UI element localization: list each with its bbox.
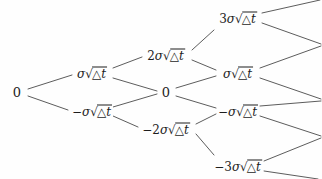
triangle-delta-icon: △ (92, 67, 101, 81)
lattice-edge (176, 96, 216, 108)
minus-sign: − (218, 105, 228, 119)
node-value-text: 0 (162, 85, 170, 100)
lattice-edge (196, 134, 214, 155)
sigma-symbol: σ (77, 67, 85, 81)
lattice-edge (113, 78, 157, 91)
lattice-edge (260, 46, 321, 68)
minus-sign: − (214, 160, 224, 174)
node-coefficient: 3 (219, 12, 227, 26)
lattice-edge (113, 116, 138, 127)
time-variable: t (101, 67, 106, 81)
radicand: △t (92, 67, 107, 80)
square-root-symbol: √△t (90, 105, 112, 118)
lattice-diagram: 0σ√△t−σ√△t2σ√△t0−2σ√△t3σ√△tσ√△t−σ√△t−3σ√… (0, 0, 322, 179)
sigma-symbol: σ (228, 105, 236, 119)
lattice-edge (262, 0, 320, 13)
lattice-edge (192, 30, 214, 50)
lattice-node-n1d: −σ√△t (71, 105, 113, 118)
time-variable: t (252, 105, 257, 119)
lattice-edge (28, 96, 68, 110)
lattice-node-n3d: −3σ√△t (213, 160, 263, 173)
radicand: △t (97, 105, 112, 118)
radicand: △t (242, 12, 257, 25)
sigma-symbol: σ (232, 160, 240, 174)
lattice-node-n2u: 2σ√△t (146, 49, 186, 62)
lattice-edge (262, 23, 321, 44)
minus-sign: − (142, 123, 152, 137)
time-variable: t (179, 49, 184, 63)
lattice-edge (28, 75, 72, 89)
sigma-symbol: σ (155, 49, 163, 63)
time-variable: t (184, 123, 189, 137)
square-root-symbol: √△t (240, 160, 262, 173)
lattice-node-n3mu: σ√△t (222, 67, 254, 80)
sigma-symbol: σ (227, 12, 235, 26)
square-root-symbol: √△t (168, 123, 190, 136)
node-coefficient: 3 (224, 160, 232, 174)
square-root-symbol: √△t (236, 105, 258, 118)
lattice-edge (176, 76, 216, 88)
minus-sign: − (72, 105, 82, 119)
lattice-edge (260, 78, 321, 99)
square-root-symbol: √△t (85, 67, 107, 80)
lattice-edge (264, 138, 321, 161)
radicand: △t (247, 160, 262, 173)
lattice-node-n2d: −2σ√△t (141, 123, 191, 136)
triangle-delta-icon: △ (175, 123, 184, 137)
lattice-node-n2m: 0 (161, 86, 171, 99)
sigma-symbol: σ (223, 67, 231, 81)
edge-group (28, 0, 321, 179)
radicand: △t (238, 67, 253, 80)
lattice-edge (260, 101, 321, 106)
sigma-symbol: σ (160, 123, 168, 137)
lattice-node-n3u: 3σ√△t (218, 12, 258, 25)
radicand: △t (170, 49, 185, 62)
triangle-delta-icon: △ (247, 160, 256, 174)
lattice-edge (196, 114, 216, 124)
triangle-delta-icon: △ (242, 12, 251, 26)
triangle-delta-icon: △ (243, 105, 252, 119)
node-coefficient: 2 (147, 49, 155, 63)
lattice-node-n0: 0 (12, 86, 22, 99)
lattice-edge (264, 171, 318, 179)
node-coefficient: 2 (152, 123, 160, 137)
time-variable: t (256, 160, 261, 174)
time-variable: t (251, 12, 256, 26)
radicand: △t (175, 123, 190, 136)
lattice-edge (113, 94, 157, 107)
lattice-edge (260, 116, 321, 136)
lattice-node-n3md: −σ√△t (217, 105, 259, 118)
triangle-delta-icon: △ (238, 67, 247, 81)
square-root-symbol: √△t (231, 67, 253, 80)
time-variable: t (247, 67, 252, 81)
sigma-symbol: σ (82, 105, 90, 119)
square-root-symbol: √△t (163, 49, 185, 62)
triangle-delta-icon: △ (170, 49, 179, 63)
lattice-edge (192, 60, 216, 70)
lattice-edge (113, 57, 142, 68)
lattice-node-n1u: σ√△t (76, 67, 108, 80)
time-variable: t (106, 105, 111, 119)
radicand: △t (243, 105, 258, 118)
square-root-symbol: √△t (235, 12, 257, 25)
node-value-text: 0 (13, 85, 21, 100)
triangle-delta-icon: △ (97, 105, 106, 119)
